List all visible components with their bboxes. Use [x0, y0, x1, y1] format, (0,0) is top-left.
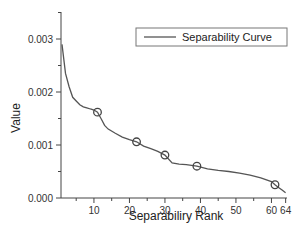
y-axis-ticks — [56, 13, 61, 199]
y-tick-label: 0.001 — [28, 140, 53, 151]
y-tick-label: 0.000 — [28, 193, 53, 204]
x-axis-ticks — [76, 198, 285, 203]
x-tick-label: 50 — [230, 205, 242, 216]
chart: 0.0000.0010.0020.003 10203040506064 Sepa… — [0, 0, 304, 240]
curve-markers — [94, 108, 279, 188]
legend: Separability Curve — [136, 28, 287, 46]
x-tick-label: 60 — [266, 205, 278, 216]
legend-label: Separability Curve — [182, 31, 272, 43]
y-axis-tick-labels: 0.0000.0010.0020.003 — [28, 34, 53, 204]
x-axis-title: Separabiliry Rank — [129, 209, 225, 223]
x-tick-label: 64 — [280, 205, 292, 216]
separability-curve-line — [62, 44, 286, 192]
y-tick-label: 0.003 — [28, 34, 53, 45]
y-axis-title: Value — [9, 103, 23, 133]
y-tick-label: 0.002 — [28, 87, 53, 98]
x-tick-label: 10 — [88, 205, 100, 216]
